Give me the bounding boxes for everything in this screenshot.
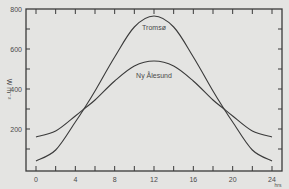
x-tick-label: 16 (189, 176, 197, 183)
x-tick-label: 20 (229, 176, 237, 183)
y-tick-label: 200 (10, 126, 22, 133)
x-tick-label: 8 (113, 176, 117, 183)
series-label-ny-alesund: Ny Ålesund (136, 71, 172, 80)
x-tick-label: 4 (73, 176, 77, 183)
y-tick-label: 800 (10, 6, 22, 13)
series-label-tromso: Tromsø (142, 24, 167, 31)
chart: 04812162024200400600800W m⁻²hrsTromsøNy … (0, 0, 289, 189)
series-line-tromso (36, 16, 272, 161)
y-axis-label: W m⁻² (6, 79, 13, 100)
x-axis-label: hrs (275, 182, 282, 188)
y-tick-label: 600 (10, 46, 22, 53)
x-tick-label: 0 (34, 176, 38, 183)
plot-frame (26, 9, 282, 171)
x-tick-label: 12 (150, 176, 158, 183)
